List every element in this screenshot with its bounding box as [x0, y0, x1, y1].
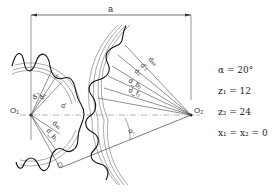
arrow-left-icon [31, 14, 37, 17]
label-da1: dₐ₁ [51, 119, 63, 130]
label-o1: O₁ [10, 106, 19, 115]
line-of-action [60, 115, 191, 168]
gear-mesh-diagram: a O₁ O₂ [0, 0, 276, 193]
label-db1: d_b₁ [44, 127, 60, 143]
param-alpha: α = 20° [218, 60, 268, 81]
angle-arc-2 [125, 118, 130, 140]
gear2-circles [88, 25, 130, 185]
parameters-list: α = 20° z₁ = 12 z₂ = 24 x₁ = x₂ = 0 [218, 60, 268, 144]
label-alpha-2: α' [127, 128, 135, 135]
gear2-radial-lines [98, 45, 191, 115]
param-x: x₁ = x₂ = 0 [218, 123, 268, 144]
param-z2: z₂ = 24 [218, 102, 268, 123]
param-z1: z₁ = 12 [218, 81, 268, 102]
label-o2: O₂ [194, 106, 203, 115]
arrow-right-icon [185, 14, 191, 17]
gear2-tooth-profile [86, 26, 126, 180]
label-a: a [108, 4, 113, 14]
label-alpha-1: α' [61, 102, 66, 109]
